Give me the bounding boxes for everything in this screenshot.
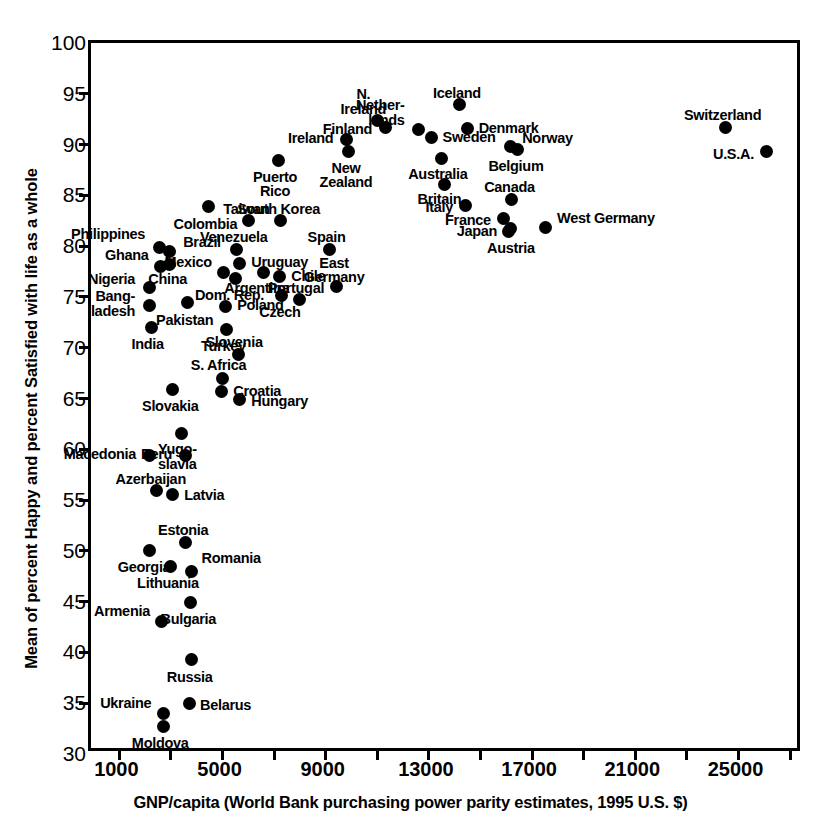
x-axis-tick [479, 748, 482, 760]
data-point-label: Latvia [184, 488, 224, 503]
x-axis-tick [685, 748, 688, 760]
data-point [184, 596, 197, 609]
x-axis-tick [376, 748, 379, 760]
data-point-label: Moldova [132, 736, 189, 751]
data-point [157, 720, 170, 733]
data-point [179, 536, 192, 549]
data-point-label: Belarus [200, 698, 251, 713]
data-point [412, 123, 425, 136]
x-axis-tick [273, 748, 276, 760]
data-point-label: New Zealand [320, 161, 373, 190]
data-point-label: Ukraine [100, 696, 151, 711]
data-point-label: Hungary [251, 394, 308, 409]
data-point-label: Bulgaria [161, 612, 217, 627]
data-point [202, 200, 215, 213]
data-point [232, 348, 245, 361]
data-point-label: Spain [308, 230, 346, 245]
y-axis-tick-label: 85 [63, 183, 86, 207]
y-axis-tick-label: 75 [63, 285, 86, 309]
x-axis-tick [582, 748, 585, 760]
data-point [185, 653, 198, 666]
x-axis-tick-label: 17000 [501, 758, 557, 781]
data-point-label: Philippines [71, 227, 145, 242]
data-point-label: Macedonia [64, 447, 136, 462]
data-point [143, 281, 156, 294]
y-axis-tick-label: 35 [63, 691, 86, 715]
data-point [166, 488, 179, 501]
data-point [233, 257, 246, 270]
data-point [179, 449, 192, 462]
data-point-label: Venezuela [200, 230, 267, 245]
data-point-label: Switzerland [684, 108, 761, 123]
y-axis-tick-label: 45 [63, 590, 86, 614]
y-axis-tick-label: 95 [63, 82, 86, 106]
data-point [342, 145, 355, 158]
data-point-label: Mexico [164, 255, 211, 270]
data-point [183, 697, 196, 710]
data-point [143, 299, 156, 312]
data-point-label: Russia [167, 670, 213, 685]
data-point-label: Slovenia [205, 335, 262, 350]
data-point-label: Ghana [105, 248, 149, 263]
x-axis-tick-label: 5000 [197, 758, 242, 781]
data-point [215, 385, 228, 398]
data-point [425, 131, 438, 144]
y-axis-tick-label: 30 [63, 742, 86, 766]
data-point-label: Estonia [158, 523, 208, 538]
data-point-label: Georgia [118, 560, 171, 575]
data-point [216, 372, 229, 385]
data-point-label: Norway [522, 131, 573, 146]
data-point [219, 300, 232, 313]
data-point [511, 143, 524, 156]
data-point [760, 145, 773, 158]
data-point-label: U.S.A. [713, 147, 754, 162]
data-point [461, 122, 474, 135]
data-point-label: India [131, 337, 163, 352]
data-point [502, 225, 515, 238]
x-axis-tick-label: 13000 [398, 758, 454, 781]
data-point-label: Lithuania [137, 576, 199, 591]
x-axis-tick-label: 1000 [94, 758, 139, 781]
data-point [175, 427, 188, 440]
data-point-label: Canada [484, 180, 535, 195]
data-point [143, 544, 156, 557]
data-point-label: Romania [202, 551, 261, 566]
data-point-label: East Germany [304, 256, 365, 285]
data-point-label: Austria [487, 241, 535, 256]
data-point [164, 560, 177, 573]
data-point [233, 393, 246, 406]
y-axis-tick-label: 55 [63, 488, 86, 512]
data-point [185, 565, 198, 578]
data-point-label: Japan [457, 224, 497, 239]
y-axis-tick-label: 65 [63, 387, 86, 411]
data-point-label: Slovakia [142, 399, 198, 414]
plot-area: 3035404550556065707580859095100Philippin… [88, 40, 800, 751]
data-point [257, 266, 270, 279]
x-axis-tick [789, 748, 792, 760]
data-point [166, 383, 179, 396]
data-point-label: West Germany [557, 211, 655, 226]
y-axis-tick-label: 50 [63, 539, 86, 563]
data-point-label: Iceland [433, 86, 481, 101]
scatter-chart-figure: Mean of percent Happy and percent Satisf… [0, 0, 821, 837]
y-axis-tick-label: 40 [63, 640, 86, 664]
data-point [438, 178, 451, 191]
data-point-label: Azerbaijan [116, 472, 186, 487]
data-point-label: Nether- lands [356, 98, 405, 127]
y-axis-tick-label: 70 [63, 336, 86, 360]
data-point-label: Puerto Rico [253, 170, 297, 199]
data-point [272, 154, 285, 167]
y-axis-tick-label: 90 [63, 133, 86, 157]
data-point-label: Armenia [94, 604, 150, 619]
y-axis-tick-label: 100 [51, 31, 86, 55]
data-point-label: Belgium [488, 159, 543, 174]
data-point-label: Australia [408, 167, 467, 182]
data-point-label: Peru [141, 447, 172, 462]
data-point-label: Pakistan [156, 313, 213, 328]
x-axis-tick-label: 25000 [708, 758, 764, 781]
data-point [459, 199, 472, 212]
x-axis-tick-label: 9000 [301, 758, 346, 781]
data-point [181, 296, 194, 309]
data-point [157, 707, 170, 720]
x-axis-tick-label: 21000 [605, 758, 661, 781]
